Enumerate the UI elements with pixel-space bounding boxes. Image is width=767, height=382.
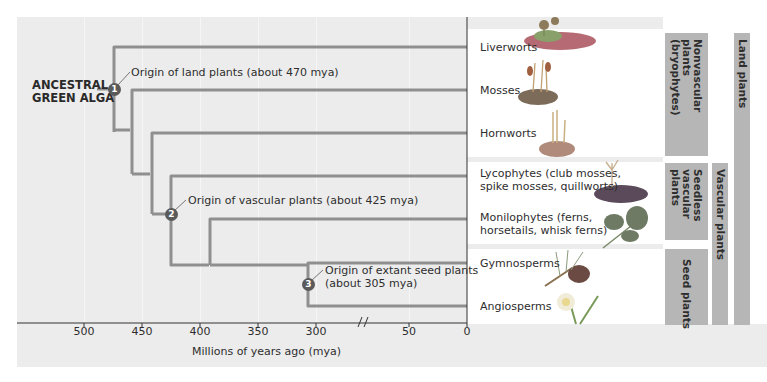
- taxon-angiosperms: Angiosperms: [480, 300, 552, 313]
- taxon-liverworts: Liverworts: [480, 41, 537, 54]
- event-node-3: 3: [302, 278, 315, 291]
- event-label-line: (about 305 mya): [325, 277, 478, 290]
- moss-illustration: [518, 60, 558, 105]
- event-label-line: Origin of extant seed plants: [325, 264, 478, 277]
- taxon-line: Monilophytes (ferns,: [480, 211, 607, 224]
- axis-title: Millions of years ago (mya): [192, 345, 341, 358]
- event-label-vascular-plants: Origin of vascular plants (about 425 mya…: [188, 194, 418, 207]
- taxon-mosses: Mosses: [480, 84, 520, 97]
- group-label-seed: Seed plants: [681, 259, 692, 329]
- axis-tick-500: 500: [74, 325, 95, 338]
- group-bar-land: Land plants: [734, 33, 750, 325]
- group-bar-nonvascular: Nonvascular plants (bryophytes): [665, 33, 708, 156]
- axis-tick-400: 400: [190, 325, 211, 338]
- axis-tick-300: 300: [306, 325, 327, 338]
- taxon-line: spike mosses, quillworts): [480, 180, 621, 193]
- group-label-seedless-vascular: Seedless vascular plants: [670, 169, 703, 222]
- group-bar-vascular: Vascular plants: [712, 163, 728, 325]
- axis-tick-50: 50: [402, 325, 416, 338]
- fern-illustration: [603, 206, 648, 248]
- hornwort-illustration: [539, 110, 575, 157]
- group-bar-seed: Seed plants: [665, 249, 708, 325]
- event-node-1: 1: [108, 83, 121, 96]
- taxon-line: Lycophytes (club mosses,: [480, 167, 621, 180]
- taxon-line: horsetails, whisk ferns): [480, 224, 607, 237]
- axis-tick-0: 0: [464, 325, 471, 338]
- group-label-vascular: Vascular plants: [715, 169, 726, 260]
- axis-tick-450: 450: [132, 325, 153, 338]
- taxon-monilophytes: Monilophytes (ferns, horsetails, whisk f…: [480, 211, 607, 237]
- event-label-seed-plants: Origin of extant seed plants (about 305 …: [325, 264, 478, 290]
- event-label-land-plants: Origin of land plants (about 470 mya): [131, 66, 339, 79]
- group-label-land: Land plants: [737, 39, 748, 108]
- group-label-nonvascular: Nonvascular plants (bryophytes): [670, 39, 703, 116]
- taxon-hornworts: Hornworts: [480, 127, 537, 140]
- group-bar-seedless-vascular: Seedless vascular plants: [665, 163, 708, 240]
- root-label: ANCESTRAL GREEN ALGA: [32, 79, 114, 105]
- daffodil-illustration: [557, 293, 598, 324]
- taxon-lycophytes: Lycophytes (club mosses, spike mosses, q…: [480, 167, 621, 193]
- taxon-gymnosperms: Gymnosperms: [480, 257, 560, 270]
- axis-tick-350: 350: [248, 325, 269, 338]
- event-node-2: 2: [165, 208, 178, 221]
- phylogenetic-tree: [0, 0, 767, 382]
- root-label-line: GREEN ALGA: [32, 92, 114, 105]
